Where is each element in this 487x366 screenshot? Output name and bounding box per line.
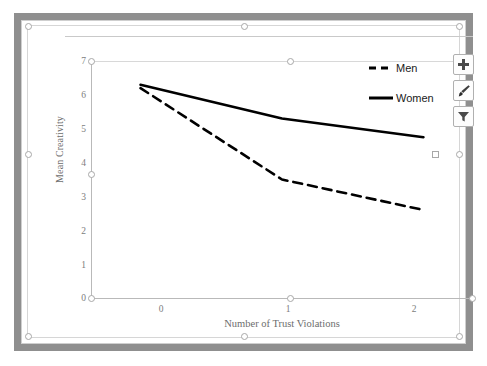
plus-icon (457, 58, 470, 71)
plot-handle-middle-left[interactable] (88, 171, 95, 178)
plot-handle-bottom-right[interactable] (469, 295, 476, 302)
resize-handle-middle-left[interactable] (25, 151, 32, 158)
funnel-icon (457, 110, 470, 123)
legend-item-men[interactable]: Men (368, 60, 448, 76)
legend-dashed-line-icon (368, 63, 394, 73)
plot-handle-right-square[interactable] (432, 151, 439, 158)
resize-handle-middle-right[interactable] (456, 151, 463, 158)
chart-quick-buttons[interactable] (453, 54, 475, 128)
resize-handle-bottom-left[interactable] (25, 333, 32, 340)
plot-handle-top-center[interactable] (287, 58, 294, 65)
plot-handle-top-left[interactable] (88, 58, 95, 65)
resize-handle-bottom-right[interactable] (456, 333, 463, 340)
legend-label-men: Men (396, 62, 417, 74)
chart-styles-button[interactable] (453, 80, 474, 101)
resize-handle-top-center[interactable] (241, 23, 248, 30)
resize-handle-top-left[interactable] (25, 23, 32, 30)
resize-handle-bottom-center[interactable] (241, 333, 248, 340)
chart-legend[interactable]: Men Women (368, 60, 448, 112)
legend-solid-line-icon (368, 93, 394, 103)
legend-item-women[interactable]: Women (368, 90, 448, 106)
resize-handle-top-right[interactable] (456, 23, 463, 30)
brush-icon (457, 84, 471, 98)
legend-label-women: Women (396, 92, 434, 104)
chart-object[interactable]: 7 6 5 4 3 2 1 0 Mean Creativity 0 1 2 Nu… (27, 25, 460, 338)
plot-handle-bottom-center[interactable] (287, 295, 294, 302)
chart-elements-button[interactable] (453, 54, 474, 75)
picture-frame: 7 6 5 4 3 2 1 0 Mean Creativity 0 1 2 Nu… (0, 0, 487, 366)
plot-handle-bottom-left[interactable] (88, 295, 95, 302)
chart-filters-button[interactable] (453, 106, 474, 127)
